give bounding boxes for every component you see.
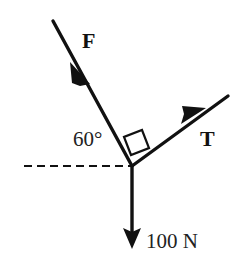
force-f-label: F — [82, 30, 95, 52]
tension-t-label: T — [200, 128, 215, 150]
weight-magnitude-label: 100 N — [146, 231, 198, 252]
force-diagram-canvas: F T 60° 100 N — [0, 0, 241, 267]
right-angle-marker — [124, 130, 149, 155]
angle-60-label: 60° — [73, 129, 102, 150]
force-f-arrowhead — [70, 62, 90, 86]
